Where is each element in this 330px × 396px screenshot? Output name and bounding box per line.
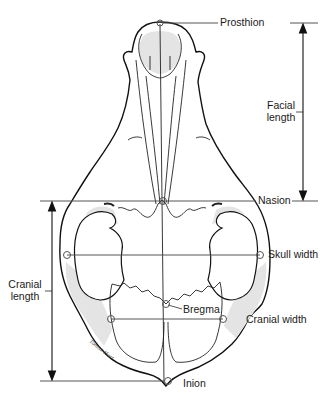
arrowhead-up: [49, 202, 56, 211]
arrowhead-down: [49, 371, 56, 380]
nasion-label: Nasion: [258, 194, 291, 206]
prosthion-label: Prosthion: [220, 16, 264, 28]
facial-length-label: Facial length: [265, 99, 297, 123]
arrowhead-up: [300, 24, 307, 33]
cranial-length-label-line1: Cranial: [4, 278, 46, 290]
skull-diagram: Prosthion Facial length Nasion Skull wid…: [0, 0, 330, 396]
inion-label: Inion: [183, 377, 206, 389]
facial-length-label-line2: length: [265, 111, 297, 123]
cranial-length-label-line2: length: [4, 290, 46, 302]
cranial-width-label: Cranial width: [246, 313, 307, 325]
bregma-label: Bregma: [183, 303, 220, 315]
arrowhead-down: [300, 191, 307, 200]
skull-width-label: Skull width: [268, 248, 318, 260]
cranial-length-label: Cranial length: [4, 278, 46, 302]
facial-length-label-line1: Facial: [265, 99, 297, 111]
